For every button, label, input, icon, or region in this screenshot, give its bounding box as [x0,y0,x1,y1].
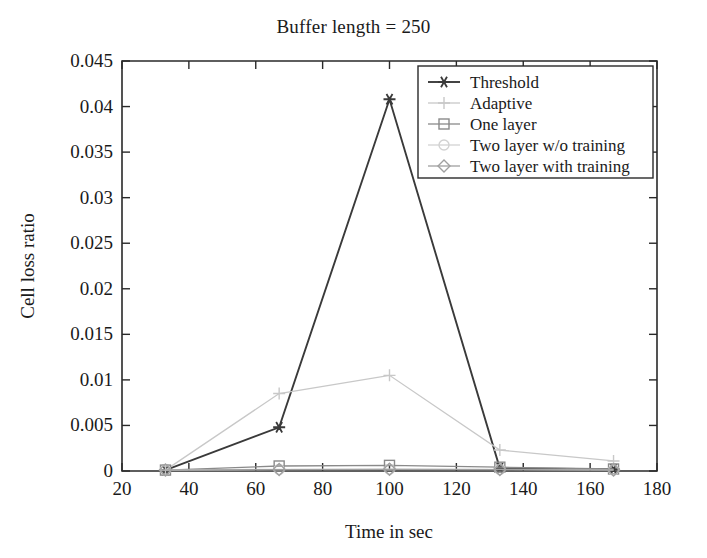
x-tick-label: 20 [113,478,132,499]
data-point-marker [273,388,285,400]
x-tick-label: 140 [509,478,538,499]
data-point-marker [384,369,396,381]
x-tick-label: 180 [643,478,672,499]
data-point-marker [273,422,285,432]
x-tick-label: 160 [576,478,605,499]
series-line [165,469,613,470]
x-tick-label: 100 [375,478,404,499]
x-axis-tick-labels: 20406080100120140160180 [113,478,672,499]
legend-label: One layer [470,115,537,134]
x-axis-title: Time in sec [345,521,433,542]
x-tick-label: 80 [313,478,332,499]
y-axis-title: Cell loss ratio [17,213,38,319]
legend-label: Two layer w/o training [470,136,626,155]
y-tick-label: 0.015 [70,323,113,344]
y-tick-label: 0.005 [70,414,113,435]
x-tick-label: 120 [442,478,471,499]
series-line [165,375,613,470]
legend-label: Two layer with training [470,157,630,176]
chart-legend: ThresholdAdaptiveOne layerTwo layer w/o … [418,66,653,178]
y-tick-label: 0.045 [70,50,113,71]
y-tick-label: 0.01 [80,369,113,390]
y-tick-label: 0.035 [70,141,113,162]
y-axis-tick-labels: 00.0050.010.0150.020.0250.030.0350.040.0… [70,50,113,481]
x-tick-label: 40 [179,478,198,499]
y-tick-label: 0.03 [80,187,113,208]
y-tick-label: 0.02 [80,278,113,299]
legend-label: Adaptive [470,94,532,113]
y-tick-label: 0.04 [80,96,114,117]
y-tick-label: 0.025 [70,232,113,253]
plot-area: 00.0050.010.0150.020.0250.030.0350.040.0… [0,0,707,558]
data-point-marker [384,94,396,104]
x-tick-label: 60 [246,478,265,499]
chart-page: Buffer length = 250 00.0050.010.0150.020… [0,0,707,558]
legend-label: Threshold [470,73,539,92]
